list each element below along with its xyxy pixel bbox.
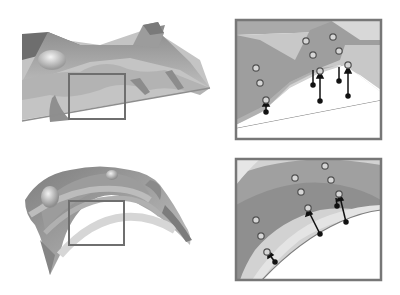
bottom-inset-illustration [0,145,400,295]
top-inset-panel [0,0,400,145]
bottom-inset-panel [0,145,400,295]
top-inset-illustration [0,0,400,145]
